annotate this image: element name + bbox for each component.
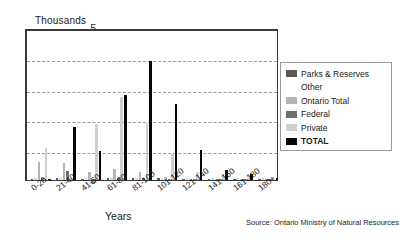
bar: [208, 179, 211, 180]
legend-item[interactable]: Private: [286, 121, 387, 135]
legend-label: Private: [301, 124, 327, 133]
source-attribution: Source: Ontario Ministry of Natural Reso…: [246, 218, 399, 227]
legend-label: Other: [301, 83, 322, 92]
bar-group: [107, 31, 127, 180]
legend-swatch: [286, 124, 297, 131]
bar-group: [31, 31, 51, 180]
bar: [73, 127, 76, 181]
bar: [48, 179, 51, 180]
bar: [45, 148, 48, 180]
bar: [132, 178, 135, 180]
bar: [149, 61, 152, 180]
legend-swatch: [286, 84, 297, 91]
legend-item[interactable]: Ontario Total: [286, 94, 387, 108]
legend-label: Parks & Reserves: [301, 70, 369, 79]
bar-group: [258, 31, 278, 180]
bar: [233, 179, 236, 180]
legend-label: TOTAL: [301, 137, 329, 146]
bar-group: [208, 31, 228, 180]
x-axis-title: Years: [105, 210, 131, 222]
plot-area: [25, 29, 278, 181]
legend-swatch: [286, 97, 297, 104]
bar-group: [182, 31, 202, 180]
legend-item[interactable]: Parks & Reserves: [286, 67, 387, 81]
chart-legend: Parks & ReservesOtherOntario TotalFedera…: [280, 62, 392, 151]
bar-group: [233, 31, 253, 180]
bar: [124, 95, 127, 180]
bar-group: [132, 31, 152, 180]
legend-item[interactable]: TOTAL: [286, 135, 387, 149]
legend-label: Ontario Total: [301, 97, 349, 106]
legend-item[interactable]: Other: [286, 81, 387, 95]
bar: [56, 178, 59, 180]
bar: [120, 97, 123, 180]
bar: [107, 178, 110, 180]
legend-swatch: [286, 70, 297, 77]
bar-group: [157, 31, 177, 180]
legend-swatch: [286, 111, 297, 118]
legend-item[interactable]: Federal: [286, 108, 387, 122]
legend-label: Federal: [301, 110, 330, 119]
bar: [31, 179, 34, 180]
bar: [157, 178, 160, 180]
bar-group: [56, 31, 76, 180]
bar-group: [81, 31, 101, 180]
plot-inner: [27, 31, 277, 180]
legend-swatch: [286, 138, 297, 145]
